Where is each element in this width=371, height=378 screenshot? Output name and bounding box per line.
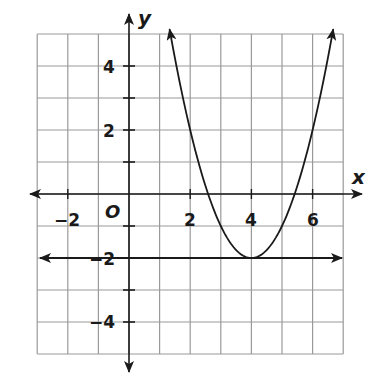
y-tick-label-neg2: −2 bbox=[89, 249, 115, 269]
x-tick-label-6: 6 bbox=[307, 210, 319, 230]
origin-label: O bbox=[105, 201, 120, 222]
y-axis-label: y bbox=[138, 6, 152, 30]
y-tick-label-4: 4 bbox=[103, 57, 115, 77]
coordinate-plane: x y O −2 2 4 6 4 2 −2 −4 bbox=[0, 0, 371, 378]
x-tick-label-2: 2 bbox=[184, 210, 196, 230]
y-tick-label-2: 2 bbox=[103, 121, 115, 141]
x-tick-label-neg2: −2 bbox=[54, 210, 80, 230]
x-tick-label-4: 4 bbox=[245, 210, 257, 230]
y-tick-label-neg4: −4 bbox=[89, 312, 115, 332]
x-axis-label: x bbox=[351, 165, 366, 189]
